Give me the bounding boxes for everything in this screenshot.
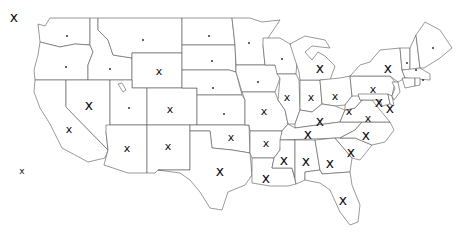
dot-marker-ut bbox=[128, 107, 130, 109]
x-marker-ky: x bbox=[316, 114, 324, 128]
state-OR bbox=[34, 42, 93, 80]
dot-marker-or bbox=[65, 66, 67, 68]
dot-marker-ks bbox=[223, 113, 225, 115]
x-marker-az: x bbox=[124, 143, 131, 154]
x-marker-al: x bbox=[302, 154, 310, 168]
dot-marker-mt bbox=[142, 39, 144, 41]
state-IA bbox=[236, 65, 280, 92]
x-marker-nv: x bbox=[85, 98, 93, 112]
x-marker-wv: x bbox=[346, 106, 353, 117]
x-marker-md: x bbox=[375, 95, 383, 109]
x-marker-va: x bbox=[365, 113, 372, 124]
x-marker-sc: x bbox=[347, 145, 355, 159]
state-CT bbox=[402, 78, 415, 88]
map-caption bbox=[0, 234, 461, 243]
x-marker-il: x bbox=[284, 92, 291, 103]
x-marker-ok: x bbox=[228, 132, 235, 143]
state-KS bbox=[197, 95, 245, 125]
x-marker-ny: x bbox=[384, 61, 392, 75]
x-marker-in: x bbox=[308, 92, 315, 103]
state-RI bbox=[415, 78, 420, 86]
dot-marker-nh bbox=[415, 69, 417, 71]
x-marker-ms: x bbox=[280, 153, 288, 167]
x-marker-ca: x bbox=[66, 124, 73, 135]
state-MI bbox=[290, 36, 335, 80]
x-marker-fl: x bbox=[339, 193, 347, 207]
dot-marker-me bbox=[432, 47, 434, 49]
dot-marker-mn bbox=[248, 42, 250, 44]
x-marker-de: x bbox=[386, 101, 394, 115]
dot-marker-sd bbox=[211, 60, 213, 62]
dot-marker-nd bbox=[208, 35, 210, 37]
x-marker-hi: x bbox=[19, 167, 24, 176]
dot-marker-ma bbox=[422, 79, 424, 81]
x-marker-mo: x bbox=[261, 106, 268, 117]
x-marker-pa: x bbox=[370, 84, 377, 95]
state-FL bbox=[305, 170, 360, 225]
dot-marker-wi bbox=[281, 58, 283, 60]
state-ND bbox=[182, 18, 235, 45]
state-SD bbox=[182, 45, 236, 72]
x-marker-tn: x bbox=[304, 127, 312, 141]
dot-marker-ia bbox=[257, 81, 259, 83]
x-marker-nc: x bbox=[362, 128, 370, 142]
us-states-outline bbox=[0, 0, 461, 243]
dot-marker-id bbox=[109, 68, 111, 70]
x-marker-oh: x bbox=[332, 91, 339, 102]
x-marker-nm: x bbox=[165, 141, 172, 152]
x-marker-co: x bbox=[167, 104, 174, 115]
dot-marker-vt bbox=[406, 62, 408, 64]
x-marker-wy: x bbox=[156, 66, 163, 77]
x-marker-ar: x bbox=[263, 138, 270, 149]
x-marker-ga: x bbox=[326, 156, 334, 170]
x-marker-tx: x bbox=[216, 164, 224, 178]
dot-marker-wa bbox=[66, 35, 68, 37]
x-marker-ak: x bbox=[10, 10, 18, 24]
x-marker-la: x bbox=[262, 171, 270, 185]
dot-marker-ne bbox=[212, 87, 214, 89]
us-map: xxxxxxxxxxxxxxxxxxxxxxxxxxxxxxx bbox=[0, 0, 461, 243]
state-ME bbox=[416, 22, 452, 68]
state-WA bbox=[38, 18, 90, 47]
x-marker-mi: x bbox=[316, 61, 324, 75]
state-VT bbox=[400, 48, 410, 70]
